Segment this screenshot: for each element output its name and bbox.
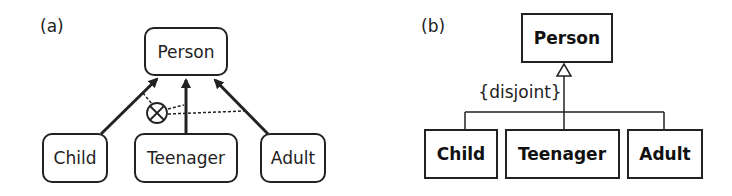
adult-label-b: Adult (639, 144, 690, 164)
disjoint-constraint-label: {disjoint} (478, 82, 561, 102)
diagram-canvas: (a) Person Child Teenager Adult (0, 0, 732, 196)
person-label-b: Person (534, 28, 600, 48)
child-label-a: Child (54, 148, 97, 168)
person-node-a: Person (145, 28, 227, 75)
panel-b: (b) Person {disjoint} Child Teenager Adu… (421, 14, 702, 178)
arrow-adult-to-person (215, 80, 268, 134)
panel-b-label: (b) (421, 16, 445, 36)
generalization-triangle-icon (557, 64, 571, 76)
person-label-a: Person (157, 42, 214, 62)
dashed-line-child (143, 93, 152, 104)
panel-a: (a) Person Child Teenager Adult (40, 16, 325, 182)
teenager-node-a: Teenager (135, 134, 237, 182)
adult-node-b: Adult (628, 130, 702, 178)
dashed-line-adult (168, 111, 244, 114)
panel-a-label: (a) (40, 16, 64, 36)
teenager-label-b: Teenager (518, 144, 607, 164)
person-node-b: Person (522, 14, 612, 62)
dashed-line-teenager (168, 105, 184, 109)
adult-label-a: Adult (271, 148, 316, 168)
child-node-b: Child (425, 130, 497, 178)
disjoint-circle-x-icon (147, 103, 167, 123)
teenager-label-a: Teenager (146, 148, 225, 168)
child-node-a: Child (43, 134, 107, 182)
adult-node-a: Adult (261, 134, 325, 182)
teenager-node-b: Teenager (506, 130, 619, 178)
child-label-b: Child (437, 144, 485, 164)
